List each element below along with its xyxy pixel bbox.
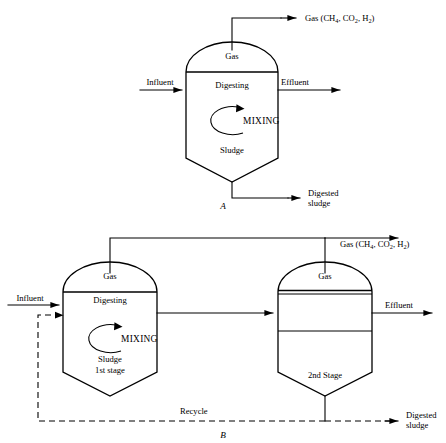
label-effluent-b: Effluent — [385, 300, 414, 310]
label-gas-formula-b: Gas (CH4, CO2, H2) — [340, 239, 410, 250]
label-digested-sludge-b-line2: sludge — [406, 420, 429, 430]
label-sludge-a: Sludge — [220, 145, 244, 155]
label-digested-sludge-a-line2: sludge — [308, 198, 331, 208]
label-digesting-b: Digesting — [93, 295, 127, 305]
gas-formula-a-part1: Gas (CH — [305, 13, 335, 23]
panel-b: Gas Digesting MIXING Sludge 1st stage Ga… — [8, 238, 437, 440]
mixing-arrowhead-b — [114, 322, 123, 330]
diagram-svg: Gas Digesting MIXING Sludge Influent Eff… — [0, 0, 446, 443]
label-digested-sludge-b-line1: Digested — [406, 410, 437, 420]
label-digesting-a: Digesting — [215, 80, 249, 90]
label-sludge-b: Sludge — [98, 354, 122, 364]
label-gas-b-stage2: Gas — [318, 271, 332, 281]
gas-header-pipe-b — [110, 238, 325, 273]
gas-outlet-pipe-a — [232, 18, 281, 50]
label-second-stage-b: 2nd Stage — [308, 370, 342, 380]
label-influent-b: Influent — [16, 293, 44, 303]
label-gas-a: Gas — [225, 51, 239, 61]
label-mixing-b: MIXING — [121, 334, 158, 344]
panel-caption-b: B — [220, 430, 226, 440]
label-gas-b-stage1: Gas — [103, 271, 117, 281]
gas-formula-b-part4: ) — [407, 239, 410, 249]
label-first-stage-b: 1st stage — [95, 365, 125, 375]
digested-sludge-pipe-a — [232, 182, 288, 198]
gas-formula-a-part4: ) — [372, 13, 375, 23]
label-effluent-a: Effluent — [281, 77, 310, 87]
mixing-arrowhead-a — [236, 104, 245, 112]
gas-formula-b-part1: Gas (CH — [340, 239, 370, 249]
label-mixing-a: MIXING — [243, 116, 280, 126]
digester-vessel-b-stage1 — [63, 262, 157, 396]
label-influent-a: Influent — [146, 77, 174, 87]
digester-vessel-a — [186, 42, 278, 182]
panel-a: Gas Digesting MIXING Sludge Influent Eff… — [140, 13, 375, 211]
recycle-arrowhead-b — [55, 312, 64, 319]
figure-canvas: Gas Digesting MIXING Sludge Influent Eff… — [0, 0, 446, 443]
gas-formula-a-part3: , H — [358, 13, 369, 23]
gas-formula-b-part3: , H — [393, 239, 404, 249]
gas-formula-b-part2: , CO — [373, 239, 389, 249]
label-gas-formula-a: Gas (CH4, CO2, H2) — [305, 13, 375, 24]
panel-caption-a: A — [219, 201, 226, 211]
gas-formula-a-part2: , CO — [338, 13, 354, 23]
label-recycle-b: Recycle — [180, 406, 208, 416]
label-digested-sludge-a-line1: Digested — [308, 188, 339, 198]
